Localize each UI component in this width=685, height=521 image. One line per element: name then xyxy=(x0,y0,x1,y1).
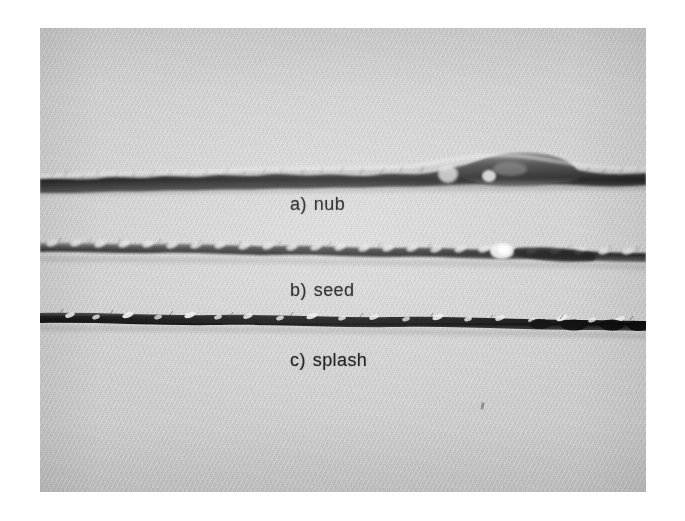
photo-vignette xyxy=(40,28,646,492)
yarn-defect-photograph: a)nub xyxy=(40,28,646,492)
figure-root: a)nub xyxy=(0,0,685,521)
